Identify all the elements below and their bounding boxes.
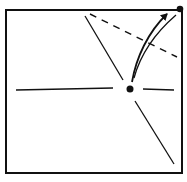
corner-point-dot bbox=[177, 6, 184, 13]
fold-arrow-icon bbox=[132, 14, 167, 82]
fold-arrow-return-stroke bbox=[134, 15, 176, 78]
crease-horizontal-left bbox=[16, 88, 113, 90]
valley-fold-dashed-line bbox=[90, 14, 177, 57]
crease-horizontal-right bbox=[143, 89, 174, 90]
crease-diagonal-upper bbox=[85, 16, 123, 80]
paper-square bbox=[6, 10, 182, 173]
center-point-dot bbox=[127, 86, 134, 93]
origami-diagram bbox=[0, 0, 187, 182]
crease-diagonal-lower bbox=[135, 101, 174, 164]
